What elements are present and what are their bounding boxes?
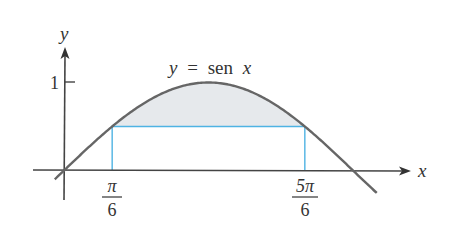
curve-label-fn: sen <box>208 57 234 78</box>
x-axis <box>33 170 404 171</box>
x-tick-5pi-over-6: 5π 6 <box>292 176 318 220</box>
x-tick-1-num: 5π <box>296 176 315 196</box>
y-tick-label: 1 <box>50 73 59 93</box>
sine-figure: y x 1 y = sen x π 6 5π 6 <box>0 0 452 230</box>
y-axis-label: y <box>58 23 69 44</box>
x-tick-0-den: 6 <box>108 200 117 220</box>
inscribed-rectangle <box>112 127 305 171</box>
x-tick-0-num: π <box>107 176 117 196</box>
curve-label-var: x <box>242 57 252 78</box>
x-axis-label: x <box>417 160 427 181</box>
curve-label: y = sen x <box>167 57 252 78</box>
curve-label-eq: = <box>187 57 198 78</box>
curve-label-lhs: y <box>167 57 178 78</box>
y-axis <box>64 55 65 200</box>
x-tick-pi-over-6: π 6 <box>102 176 122 220</box>
x-tick-1-den: 6 <box>301 200 310 220</box>
